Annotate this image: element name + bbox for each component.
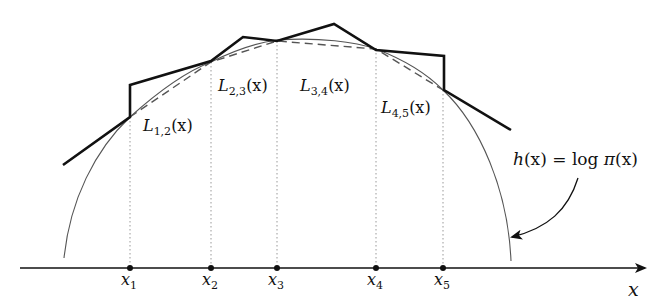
point-name: x — [268, 270, 277, 289]
segment-label-L23: L2,3(x) — [218, 78, 268, 97]
segment-subscript: 1,2 — [154, 125, 172, 138]
point-label-x5: x5 — [434, 272, 450, 291]
pi-symbol: π — [604, 149, 615, 169]
point-name: x — [121, 270, 130, 289]
segment-subscript: 4,5 — [392, 107, 410, 120]
segment-name: L — [143, 116, 154, 135]
rhs-arg: (x) — [615, 149, 638, 169]
axis-label-x: x — [628, 280, 639, 299]
point-subscript: 5 — [443, 279, 450, 292]
segment-label-L34: L3,4(x) — [300, 78, 350, 97]
dotted-guides — [130, 41, 443, 268]
point-label-x3: x3 — [268, 272, 284, 291]
point-label-x4: x4 — [367, 272, 383, 291]
point-subscript: 2 — [211, 279, 218, 292]
point-subscript: 1 — [130, 279, 137, 292]
curve-fn-name: h — [513, 149, 524, 169]
upper-envelope — [63, 24, 511, 165]
segment-arg: (x) — [171, 116, 193, 135]
curve-label: h(x) = log π(x) — [513, 151, 638, 168]
point-label-x1: x1 — [121, 272, 137, 291]
segment-arg: (x) — [409, 98, 431, 117]
segment-subscript: 3,4 — [311, 85, 329, 98]
equals-sign: = — [547, 149, 572, 169]
point-name: x — [367, 270, 376, 289]
segment-subscript: 2,3 — [229, 85, 247, 98]
segment-name: L — [300, 76, 311, 95]
segment-label-L45: L4,5(x) — [381, 100, 431, 119]
segment-name: L — [218, 76, 229, 95]
point-subscript: 4 — [376, 279, 383, 292]
segment-arg: (x) — [246, 76, 268, 95]
segment-name: L — [381, 98, 392, 117]
log-operator: log — [572, 149, 604, 169]
annotation-arrow — [512, 178, 578, 237]
point-name: x — [202, 270, 211, 289]
segment-label-L12: L1,2(x) — [143, 118, 193, 137]
axis-label-text: x — [628, 278, 639, 300]
segment-arg: (x) — [328, 76, 350, 95]
curve-fn-arg: (x) — [524, 149, 547, 169]
point-name: x — [434, 270, 443, 289]
point-label-x2: x2 — [202, 272, 218, 291]
point-subscript: 3 — [277, 279, 284, 292]
